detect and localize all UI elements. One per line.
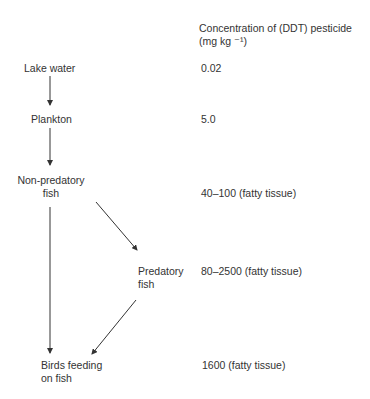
arrow-pred-to-birds bbox=[92, 300, 136, 354]
arrows bbox=[0, 0, 370, 399]
arrow-nonpred-to-pred bbox=[96, 202, 137, 250]
